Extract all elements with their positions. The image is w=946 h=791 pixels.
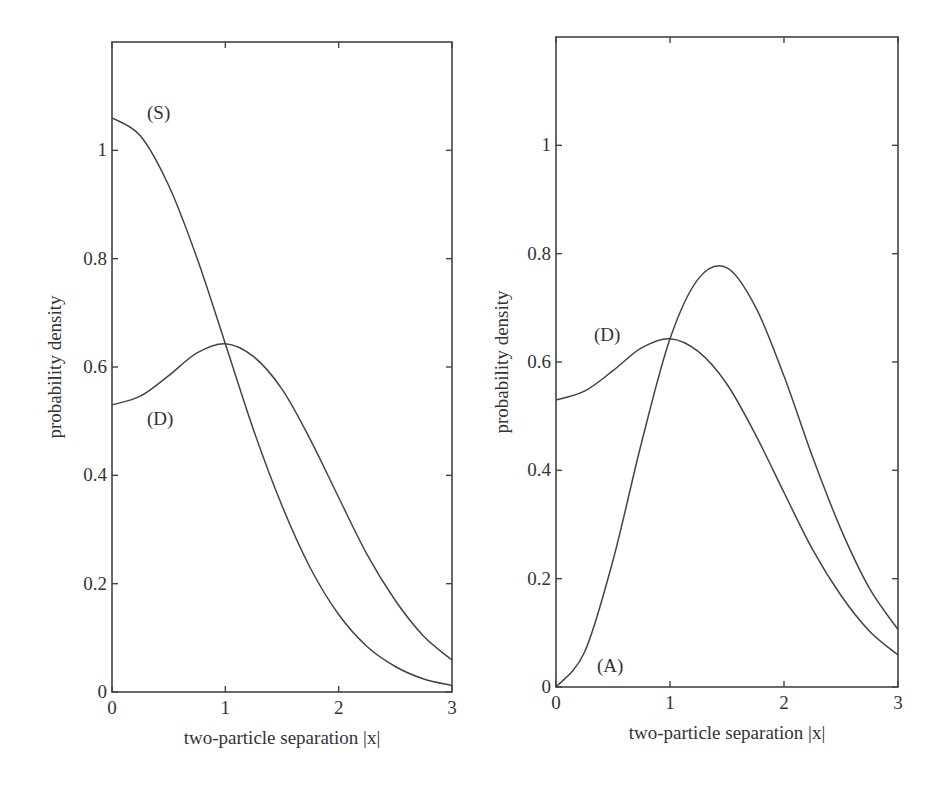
y-tick-label: 0	[542, 676, 552, 697]
y-tick-label: 0.4	[83, 464, 107, 485]
curve-label-s: (S)	[147, 102, 170, 124]
y-tick-label: 0.6	[527, 351, 551, 372]
y-tick-label: 0.2	[527, 568, 551, 589]
y-tick-label: 0.4	[527, 459, 551, 480]
y-tick-label: 0.2	[83, 573, 107, 594]
figure: 012300.20.40.60.81 (S) (D) two-particle …	[0, 0, 946, 791]
curve-d	[556, 339, 898, 655]
x-tick-label: 3	[447, 697, 457, 718]
left-curves	[112, 118, 452, 686]
x-tick-label: 2	[779, 692, 789, 713]
y-tick-label: 0.8	[83, 248, 107, 269]
right-x-axis-label: two-particle separation |x|	[629, 722, 825, 743]
left-plot-frame	[112, 42, 452, 692]
right-ticks: 012300.20.40.60.81	[527, 37, 903, 713]
x-tick-label: 3	[893, 692, 903, 713]
left-x-axis-label: two-particle separation |x|	[184, 727, 380, 748]
y-tick-label: 0.6	[83, 356, 107, 377]
figure-canvas: 012300.20.40.60.81 (S) (D) two-particle …	[0, 0, 946, 791]
x-tick-label: 1	[665, 692, 675, 713]
curve-d	[112, 344, 452, 660]
x-tick-label: 0	[107, 697, 117, 718]
right-plot: 012300.20.40.60.81 (D) (A) two-particle …	[491, 37, 903, 743]
curve-s	[112, 118, 452, 686]
left-ticks: 012300.20.40.60.81	[83, 42, 457, 718]
left-y-axis-label: probability density	[44, 295, 65, 439]
x-tick-label: 1	[221, 697, 231, 718]
curve-label-a: (A)	[597, 655, 623, 677]
y-tick-label: 0.8	[527, 243, 551, 264]
curve-label-d: (D)	[594, 324, 620, 346]
y-tick-label: 0	[98, 681, 108, 702]
x-tick-label: 0	[551, 692, 561, 713]
left-plot: 012300.20.40.60.81 (S) (D) two-particle …	[44, 42, 457, 748]
y-tick-label: 1	[542, 134, 552, 155]
right-y-axis-label: probability density	[491, 290, 512, 434]
x-tick-label: 2	[334, 697, 344, 718]
curve-label-d: (D)	[147, 408, 173, 430]
right-plot-frame	[556, 37, 898, 687]
y-tick-label: 1	[98, 139, 108, 160]
